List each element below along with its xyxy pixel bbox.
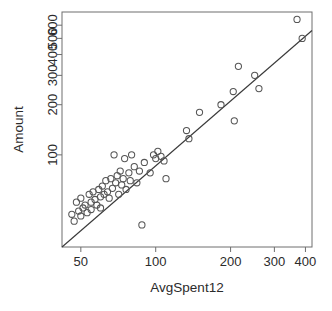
x-tick-label: 300 bbox=[264, 254, 286, 269]
y-axis-title: Amount bbox=[11, 106, 26, 153]
data-point bbox=[231, 118, 237, 124]
x-tick-label: 100 bbox=[145, 254, 167, 269]
data-point bbox=[163, 176, 169, 182]
data-point bbox=[69, 211, 75, 217]
x-tick-label: 200 bbox=[220, 254, 242, 269]
data-point bbox=[111, 152, 117, 158]
y-tick-label: 100 bbox=[46, 144, 61, 166]
data-point bbox=[131, 164, 137, 170]
y-axis: 100200300400500600Amount bbox=[11, 14, 63, 165]
x-axis: 50100200300400AvgSpent12 bbox=[74, 247, 317, 295]
data-point bbox=[78, 195, 84, 201]
data-point bbox=[183, 127, 189, 133]
data-point bbox=[84, 210, 90, 216]
data-point bbox=[218, 102, 224, 108]
plot-canvas: 50100200300400AvgSpent121002003004005006… bbox=[0, 0, 332, 311]
data-point bbox=[129, 152, 135, 158]
y-tick-label: 600 bbox=[46, 14, 61, 36]
y-tick-label: 300 bbox=[46, 65, 61, 87]
data-point bbox=[127, 178, 133, 184]
plot-frame-box bbox=[62, 12, 312, 247]
data-point bbox=[139, 222, 145, 228]
plot-frame bbox=[62, 12, 312, 247]
data-point bbox=[122, 155, 128, 161]
data-point bbox=[230, 88, 236, 94]
y-tick-label: 200 bbox=[46, 94, 61, 116]
data-point bbox=[116, 191, 122, 197]
data-point bbox=[252, 72, 258, 78]
data-point bbox=[196, 109, 202, 115]
data-point bbox=[235, 63, 241, 69]
data-point bbox=[113, 180, 119, 186]
data-point bbox=[117, 168, 123, 174]
x-tick-label: 50 bbox=[74, 254, 88, 269]
data-points bbox=[69, 16, 306, 228]
data-point bbox=[106, 195, 112, 201]
data-point bbox=[136, 168, 142, 174]
data-point bbox=[158, 153, 164, 159]
data-point bbox=[256, 85, 262, 91]
data-point bbox=[71, 218, 77, 224]
x-axis-title: AvgSpent12 bbox=[150, 280, 223, 295]
data-point bbox=[126, 170, 132, 176]
data-point bbox=[120, 176, 126, 182]
data-point bbox=[96, 186, 102, 192]
regression-line bbox=[62, 30, 312, 247]
x-tick-label: 400 bbox=[295, 254, 317, 269]
data-point bbox=[141, 159, 147, 165]
scatter-plot-figure: 50100200300400AvgSpent121002003004005006… bbox=[0, 0, 332, 311]
data-point bbox=[88, 206, 94, 212]
data-point bbox=[294, 16, 300, 22]
